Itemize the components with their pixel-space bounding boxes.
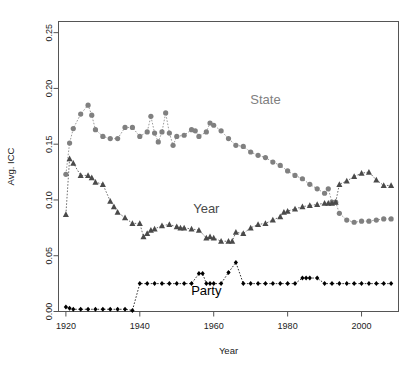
data-point-7 — [100, 181, 106, 187]
data-point-52 — [374, 217, 379, 222]
x-tick-label-0: 1920 — [56, 321, 76, 331]
data-point-48 — [336, 181, 342, 187]
data-point-15 — [167, 281, 171, 286]
data-point-31 — [233, 143, 238, 148]
data-point-36 — [270, 159, 275, 164]
data-point-14 — [148, 114, 153, 119]
series-label-state: State — [250, 92, 280, 107]
data-point-4 — [85, 103, 90, 108]
data-point-42 — [345, 281, 349, 286]
data-point-15 — [152, 130, 157, 135]
chart-container: 0.000.050.100.150.200.251920194019601980… — [0, 0, 411, 389]
icc-scatter-plot: 0.000.050.100.150.200.251920194019601980… — [0, 0, 411, 389]
data-point-28 — [211, 123, 216, 128]
data-point-44 — [326, 186, 331, 191]
data-point-23 — [189, 226, 195, 232]
data-point-1 — [67, 306, 71, 311]
data-point-43 — [322, 191, 327, 196]
data-point-12 — [137, 134, 142, 139]
series-party — [64, 260, 393, 313]
x-tick-label-3: 1980 — [278, 321, 298, 331]
data-point-45 — [367, 281, 371, 286]
data-point-10 — [122, 125, 127, 130]
series-label-party: Party — [191, 283, 222, 298]
series-line-year — [66, 159, 391, 242]
data-point-24 — [196, 227, 202, 233]
data-point-34 — [293, 281, 297, 286]
data-point-18 — [163, 110, 168, 115]
data-point-33 — [248, 225, 254, 231]
data-point-29 — [256, 281, 260, 286]
data-point-12 — [129, 220, 135, 226]
x-tick-label-4: 2000 — [352, 321, 372, 331]
data-point-16 — [175, 281, 179, 286]
data-point-11 — [138, 281, 142, 286]
series-label-year: Year — [193, 201, 220, 216]
data-point-21 — [174, 134, 179, 139]
y-tick-label-4: 0.20 — [44, 80, 54, 98]
data-point-24 — [193, 128, 198, 133]
data-point-32 — [278, 281, 282, 286]
data-point-40 — [330, 281, 334, 286]
data-point-35 — [263, 155, 268, 160]
data-point-46 — [374, 281, 378, 286]
data-point-17 — [182, 281, 186, 286]
data-point-2 — [71, 126, 76, 131]
data-point-31 — [271, 281, 275, 286]
data-point-36 — [304, 276, 308, 281]
series-line-state — [66, 105, 391, 222]
data-point-29 — [219, 128, 224, 133]
y-tick-label-3: 0.15 — [44, 135, 54, 153]
data-point-35 — [262, 220, 268, 226]
data-point-19 — [197, 271, 201, 276]
series-year — [63, 155, 394, 243]
data-point-0 — [63, 172, 68, 177]
data-point-35 — [300, 276, 304, 281]
data-point-20 — [170, 143, 175, 148]
data-point-19 — [167, 130, 172, 135]
data-point-17 — [159, 129, 164, 134]
data-point-28 — [249, 281, 253, 286]
data-point-9 — [111, 203, 117, 209]
data-point-51 — [366, 219, 371, 224]
y-tick-label-1: 0.05 — [44, 247, 54, 265]
data-point-39 — [322, 281, 326, 286]
x-tick-label-1: 1940 — [130, 321, 150, 331]
data-point-50 — [351, 173, 357, 179]
data-point-48 — [389, 281, 393, 286]
data-point-30 — [226, 136, 231, 141]
y-tick-label-2: 0.10 — [44, 191, 54, 209]
data-point-49 — [352, 220, 357, 225]
data-point-26 — [204, 129, 209, 134]
data-point-9 — [115, 136, 120, 141]
data-point-6 — [93, 127, 98, 132]
data-point-41 — [337, 281, 341, 286]
data-point-5 — [89, 113, 94, 118]
data-point-47 — [337, 211, 342, 216]
data-point-37 — [278, 163, 283, 168]
data-point-34 — [255, 221, 261, 227]
data-point-39 — [292, 173, 297, 178]
data-point-42 — [315, 186, 320, 191]
data-point-30 — [263, 281, 267, 286]
data-point-40 — [300, 176, 305, 181]
data-point-19 — [166, 221, 172, 227]
data-point-13 — [145, 129, 150, 134]
data-point-33 — [248, 149, 253, 154]
data-point-12 — [145, 281, 149, 286]
data-point-41 — [307, 182, 312, 187]
data-point-30 — [229, 238, 235, 244]
data-point-37 — [308, 276, 312, 281]
plot-frame — [59, 22, 399, 312]
data-point-17 — [152, 226, 158, 232]
data-point-50 — [359, 219, 364, 224]
data-point-53 — [381, 216, 386, 221]
data-point-40 — [292, 206, 298, 212]
data-point-54 — [381, 182, 387, 188]
data-point-8 — [107, 198, 113, 204]
x-axis-title: Year — [219, 345, 238, 356]
data-point-7 — [100, 134, 105, 139]
data-point-16 — [156, 139, 161, 144]
data-point-54 — [389, 216, 394, 221]
data-point-22 — [182, 133, 187, 138]
